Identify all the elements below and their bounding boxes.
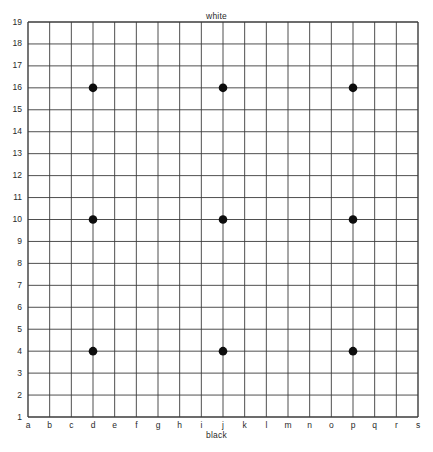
column-label-m: m	[281, 421, 295, 430]
row-label-13: 13	[6, 149, 22, 158]
column-label-p: p	[346, 421, 360, 430]
column-label-s: s	[411, 421, 425, 430]
column-label-q: q	[368, 421, 382, 430]
row-label-11: 11	[6, 193, 22, 202]
row-label-15: 15	[6, 105, 22, 114]
row-label-3: 3	[6, 369, 22, 378]
column-label-e: e	[108, 421, 122, 430]
column-label-k: k	[238, 421, 252, 430]
board-grid-svg	[28, 22, 418, 417]
board-stone[interactable]	[219, 215, 228, 224]
board-stone[interactable]	[349, 84, 358, 93]
column-label-g: g	[151, 421, 165, 430]
column-label-a: a	[21, 421, 35, 430]
board-stone[interactable]	[89, 347, 98, 356]
row-label-19: 19	[6, 18, 22, 27]
column-label-n: n	[303, 421, 317, 430]
row-label-6: 6	[6, 303, 22, 312]
black-side-label: black	[0, 430, 433, 440]
column-label-j: j	[216, 421, 230, 430]
board-stone[interactable]	[349, 347, 358, 356]
row-label-12: 12	[6, 171, 22, 180]
column-label-o: o	[324, 421, 338, 430]
column-label-f: f	[129, 421, 143, 430]
row-label-18: 18	[6, 39, 22, 48]
column-label-c: c	[64, 421, 78, 430]
row-label-8: 8	[6, 259, 22, 268]
board-stone[interactable]	[219, 84, 228, 93]
column-label-d: d	[86, 421, 100, 430]
board-stone[interactable]	[219, 347, 228, 356]
row-label-7: 7	[6, 281, 22, 290]
go-board-diagram: white abcdefghijklmnopqrs 19181716151413…	[0, 0, 433, 452]
row-label-9: 9	[6, 237, 22, 246]
column-label-l: l	[259, 421, 273, 430]
row-label-16: 16	[6, 83, 22, 92]
row-label-5: 5	[6, 325, 22, 334]
row-label-2: 2	[6, 391, 22, 400]
board-stone[interactable]	[89, 84, 98, 93]
row-label-14: 14	[6, 127, 22, 136]
board-stone[interactable]	[349, 215, 358, 224]
row-label-4: 4	[6, 347, 22, 356]
column-label-b: b	[43, 421, 57, 430]
column-label-h: h	[173, 421, 187, 430]
column-label-r: r	[389, 421, 403, 430]
board-grid	[28, 22, 418, 417]
row-label-1: 1	[6, 413, 22, 422]
board-stone[interactable]	[89, 215, 98, 224]
row-label-10: 10	[6, 215, 22, 224]
white-side-label: white	[0, 11, 433, 21]
row-label-17: 17	[6, 61, 22, 70]
column-label-i: i	[194, 421, 208, 430]
